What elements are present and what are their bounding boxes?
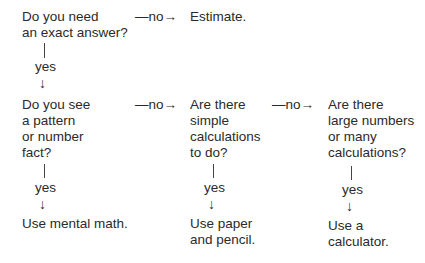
no-arrow-3: —no→ [272,97,314,113]
no-arrow-1: —no→ [135,9,177,25]
down-arrow-icon: ↓ [39,75,46,91]
question-simple-calculations: Are there simple calculations to do? [190,97,261,161]
question-exact-answer: Do you need an exact answer? [22,9,128,41]
yes-label-1: yes [35,59,56,75]
yes-label-4: yes [342,182,363,198]
connector-line-1 [44,43,45,58]
question-pattern: Do you see a pattern or number fact? [22,97,90,161]
yes-label-2: yes [35,180,56,196]
result-estimate: Estimate. [190,9,246,25]
connector-line-4 [351,166,352,180]
result-mental-math: Use mental math. [22,216,128,232]
down-arrow-icon: ↓ [39,196,46,212]
down-arrow-icon: ↓ [346,198,353,214]
result-paper-pencil: Use paper and pencil. [190,216,255,248]
connector-line-3 [213,164,214,178]
result-calculator: Use a calculator. [328,218,389,250]
connector-line-2 [44,164,45,178]
yes-label-3: yes [204,180,225,196]
down-arrow-icon: ↓ [208,196,215,212]
no-arrow-2: —no→ [135,97,177,113]
question-large-numbers: Are there large numbers or many calculat… [328,97,414,161]
